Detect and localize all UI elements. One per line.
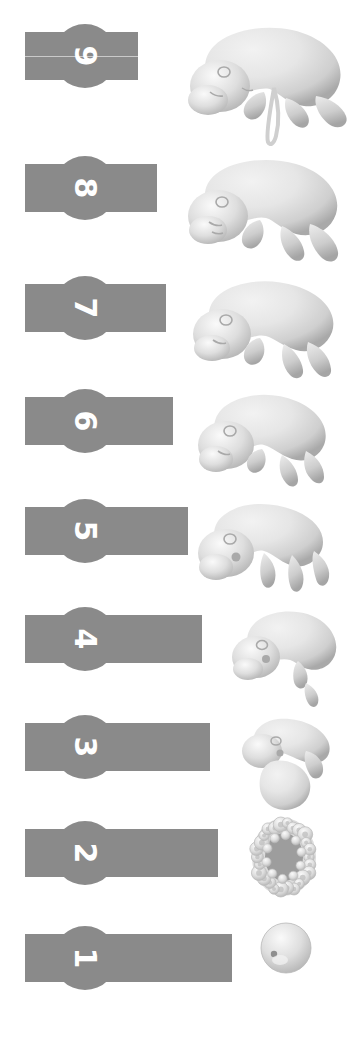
stage-label-9[interactable]: 9 bbox=[25, 14, 138, 148]
stage-list: 9 8 bbox=[0, 0, 353, 1044]
stage-label-2[interactable]: 2 bbox=[25, 815, 218, 920]
stage-label-8[interactable]: 8 bbox=[25, 148, 157, 268]
stage-number: 1 bbox=[53, 926, 117, 990]
stage-number: 8 bbox=[53, 156, 117, 220]
stage-number: 3 bbox=[53, 715, 117, 779]
embryo-figure-2 bbox=[248, 815, 320, 899]
stage-row: 2 bbox=[0, 815, 353, 920]
embryo-figure-5 bbox=[180, 493, 348, 601]
stage-label-5[interactable]: 5 bbox=[25, 493, 188, 601]
stage-label-4[interactable]: 4 bbox=[25, 601, 202, 709]
stage-number: 6 bbox=[53, 389, 117, 453]
stage-label-7[interactable]: 7 bbox=[25, 268, 166, 383]
stage-number: 9 bbox=[53, 24, 117, 88]
stage-row: 8 bbox=[0, 148, 353, 268]
stage-label-3[interactable]: 3 bbox=[25, 709, 210, 815]
embryo-figure-7 bbox=[172, 268, 350, 383]
stage-row: 3 bbox=[0, 709, 353, 815]
stage-number: 4 bbox=[53, 607, 117, 671]
stage-number: 2 bbox=[53, 821, 117, 885]
stage-row: 1 bbox=[0, 920, 353, 1030]
embryo-figure-8 bbox=[168, 148, 353, 268]
stage-number: 5 bbox=[53, 499, 117, 563]
embryo-figure-9 bbox=[168, 14, 353, 148]
stage-label-1[interactable]: 1 bbox=[25, 920, 232, 1030]
embryo-figure-6 bbox=[178, 383, 348, 493]
embryo-figure-3 bbox=[230, 709, 345, 815]
embryo-figure-4 bbox=[222, 601, 347, 709]
stage-row: 6 bbox=[0, 383, 353, 493]
stage-row: 7 bbox=[0, 268, 353, 383]
stage-row: 5 bbox=[0, 493, 353, 601]
embryo-figure-1 bbox=[258, 920, 314, 976]
stage-number: 7 bbox=[53, 276, 117, 340]
stage-label-6[interactable]: 6 bbox=[25, 383, 173, 493]
stage-row: 9 bbox=[0, 14, 353, 148]
stage-row: 4 bbox=[0, 601, 353, 709]
